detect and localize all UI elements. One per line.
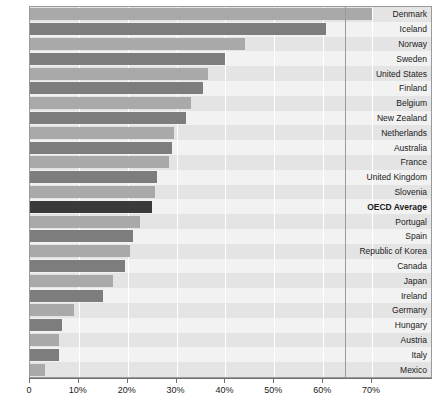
category-label: France [401,155,427,169]
category-label: Italy [411,348,427,362]
category-label: Spain [405,229,427,243]
category-label: Portugal [395,215,427,229]
category-label: Norway [398,37,427,51]
category-label: Slovenia [394,185,427,199]
category-label: OECD Average [367,200,427,214]
category-label: Austria [401,333,427,347]
bar [30,290,103,302]
category-label: United Kingdom [367,170,427,184]
x-tick-label: 50% [264,385,282,395]
bar [30,245,130,257]
category-label: Sweden [396,52,427,66]
x-tick-label: 20% [118,385,136,395]
x-tick [371,378,372,383]
bar [30,319,62,331]
bar [30,68,208,80]
chart-page: DenmarkIcelandNorwaySwedenUnited StatesF… [0,0,438,420]
plot-area: DenmarkIcelandNorwaySwedenUnited StatesF… [29,6,432,378]
category-label: Japan [404,274,427,288]
x-tick-label: 70% [362,385,380,395]
category-label: Ireland [401,289,427,303]
x-tick-label: 60% [313,385,331,395]
x-tick-label: 10% [69,385,87,395]
bar [30,275,113,287]
x-tick [322,378,323,383]
category-label: Netherlands [381,126,427,140]
bar [30,349,59,361]
bar [30,334,59,346]
bar [30,201,152,213]
bar [30,304,74,316]
x-tick [127,378,128,383]
bar [30,112,186,124]
bar [30,23,326,35]
category-label: Denmark [393,7,427,21]
bar [30,38,245,50]
bar [30,127,174,139]
bar [30,260,125,272]
x-tick [78,378,79,383]
bar [30,97,191,109]
bar [30,186,155,198]
bar [30,230,133,242]
category-label: United States [376,67,427,81]
x-tick-label: 40% [215,385,233,395]
bar [30,171,157,183]
category-label: Hungary [395,318,427,332]
category-label: Iceland [400,22,427,36]
bar [30,364,45,376]
category-label: Germany [392,303,427,317]
category-label: Canada [397,259,427,273]
bar [30,53,225,65]
category-label: Republic of Korea [359,244,427,258]
x-tick-label: 0 [26,385,31,395]
bar [30,142,172,154]
x-tick [176,378,177,383]
bar [30,156,169,168]
category-label: Belgium [396,96,427,110]
x-tick [29,378,30,383]
category-label: Mexico [400,363,427,377]
bar [30,216,140,228]
x-tick [224,378,225,383]
category-label: Australia [394,141,427,155]
bar [30,8,372,20]
category-label: Finland [399,81,427,95]
category-label-gutter: DenmarkIcelandNorwaySwedenUnited StatesF… [345,7,431,377]
bar [30,82,203,94]
category-label: New Zealand [377,111,427,125]
x-tick [273,378,274,383]
x-tick-label: 30% [167,385,185,395]
